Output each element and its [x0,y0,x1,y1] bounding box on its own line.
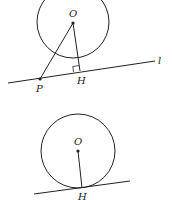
label-p: P [35,83,43,94]
geometry-diagram: O P H l O H [0,0,172,200]
label-l: l [158,55,161,66]
label-o-tangent: O [74,136,82,147]
right-angle-marker [73,66,79,72]
label-h: H [76,75,86,86]
label-o: O [69,8,77,19]
segment-oh-tangent [78,151,82,188]
point-o-tangent [76,149,79,152]
point-p [38,77,41,80]
segment-oh [73,23,80,71]
figure-tangent-line: O H [34,114,130,200]
segment-op [40,23,73,79]
label-h-tangent: H [77,191,87,200]
point-o [71,21,74,24]
figure-distance-point-to-line: O P H l [8,0,161,94]
